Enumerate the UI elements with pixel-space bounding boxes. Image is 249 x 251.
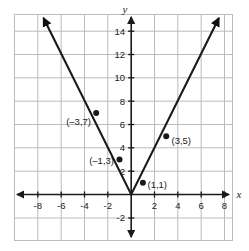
x-tick-label: -4 <box>80 200 88 211</box>
x-axis-name: x <box>236 188 242 200</box>
graph-svg: -8 -6 -4 -2 2 4 6 8 14 12 10 8 6 4 2 -2 … <box>0 0 249 251</box>
x-tick-label: -2 <box>104 200 112 211</box>
x-tick-label: 8 <box>222 200 227 211</box>
x-tick-label: -8 <box>34 200 42 211</box>
y-tick-label: 14 <box>114 26 125 37</box>
point-label-3-5: (3,5) <box>172 135 192 146</box>
data-point-neg1-3 <box>117 157 123 163</box>
point-label-neg1-3: (–1,3) <box>89 155 114 166</box>
point-label-neg3-7: (–3,7) <box>66 116 91 127</box>
y-tick-label: 4 <box>120 142 125 153</box>
y-tick-label: 6 <box>120 119 125 130</box>
point-label-1-1: (1,1) <box>148 179 168 190</box>
data-point-neg3-7 <box>93 110 99 116</box>
coordinate-plane-figure: -8 -6 -4 -2 2 4 6 8 14 12 10 8 6 4 2 -2 … <box>0 0 249 251</box>
y-tick-label: 12 <box>114 49 125 60</box>
y-tick-label: 8 <box>120 96 125 107</box>
data-point-1-1 <box>140 180 146 186</box>
x-tick-label: 6 <box>199 200 204 211</box>
data-point-3-5 <box>163 133 169 139</box>
y-tick-label: -2 <box>117 212 125 223</box>
y-tick-label: 10 <box>114 72 125 83</box>
x-tick-label: 4 <box>175 200 180 211</box>
x-tick-label: -6 <box>57 200 65 211</box>
y-axis-name: y <box>122 3 128 15</box>
x-tick-label: 2 <box>152 200 157 211</box>
